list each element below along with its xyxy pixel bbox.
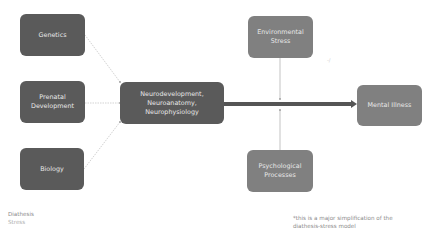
footnote-line2: diathesis-stress model bbox=[293, 222, 393, 230]
main-arrow-shaft bbox=[224, 102, 352, 106]
node-label: Environmental Stress bbox=[250, 28, 311, 46]
legend-stress: Stress bbox=[8, 218, 34, 226]
node-biology: Biology bbox=[20, 148, 84, 190]
node-label: Genetics bbox=[39, 31, 67, 40]
svg-text:-/: -/ bbox=[327, 57, 331, 63]
connector-dot bbox=[119, 81, 121, 83]
connector-dot bbox=[279, 109, 281, 111]
node-label-line3: Neurophysiology bbox=[145, 108, 199, 117]
node-label: Prenatal Development bbox=[22, 93, 83, 111]
node-label-line2: Neuroanatomy, bbox=[147, 99, 197, 108]
footnote-line1: *this is a major simplification of the bbox=[293, 214, 393, 222]
genetics-connector bbox=[85, 35, 120, 82]
connector-dot bbox=[279, 98, 281, 100]
biology-connector bbox=[84, 122, 120, 169]
legend: Diathesis Stress bbox=[8, 210, 34, 226]
node-label: Biology bbox=[40, 165, 64, 174]
node-label-line1: Neurodevelopment, bbox=[140, 90, 203, 99]
node-label: Psychological Processes bbox=[249, 162, 311, 180]
footnote: *this is a major simplification of the d… bbox=[293, 214, 393, 230]
node-genetics: Genetics bbox=[20, 14, 85, 56]
node-environmental-stress: Environmental Stress bbox=[248, 16, 313, 58]
node-prenatal-development: Prenatal Development bbox=[20, 81, 85, 123]
legend-diathesis: Diathesis bbox=[8, 210, 34, 218]
node-label: Mental Illness bbox=[368, 101, 412, 110]
node-psychological-processes: Psychological Processes bbox=[247, 150, 313, 192]
node-neurodevelopment: Neurodevelopment, Neuroanatomy, Neurophy… bbox=[120, 82, 224, 124]
node-mental-illness: Mental Illness bbox=[357, 85, 422, 126]
